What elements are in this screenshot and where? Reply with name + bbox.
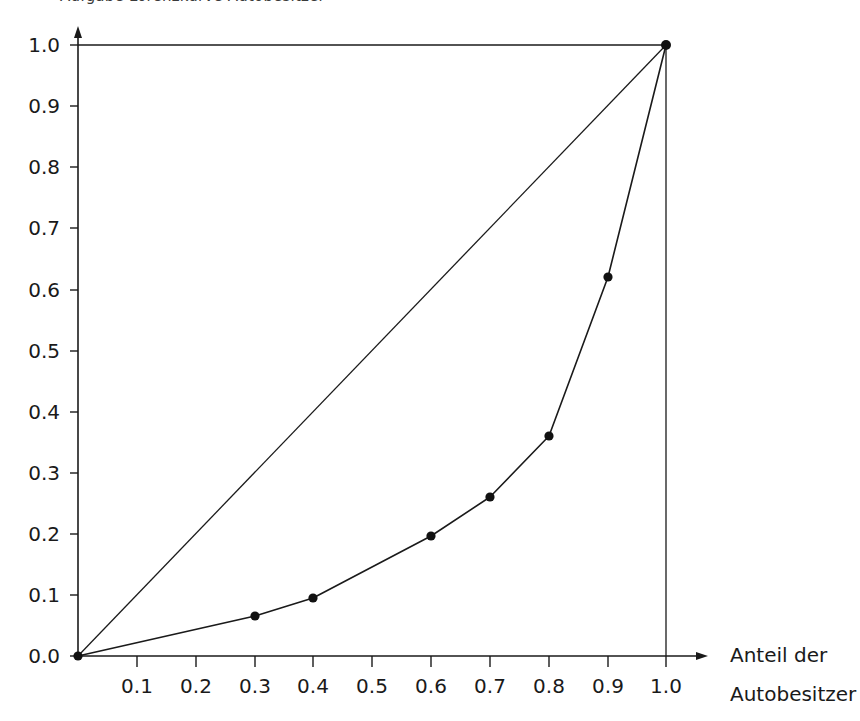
x-axis-title-line1: Anteil der [730,643,828,667]
x-tick-label-0.3: 0.3 [239,674,271,698]
equality-line [78,45,666,656]
x-tick-label-0.9: 0.9 [592,674,624,698]
x-tick-label-0.8: 0.8 [533,674,565,698]
y-tick-label-0.3: 0.3 [28,461,60,485]
lorenz-curve-chart: 1.0 0.9 0.8 0.7 0.6 0.5 0.4 0.3 0.2 0.1 … [0,0,860,721]
x-axis-tick-labels: 0.1 0.2 0.3 0.4 0.5 0.6 0.7 0.8 0.9 1.0 [121,674,682,698]
axes-group [74,26,708,660]
y-axis-ticks [70,45,78,656]
x-tick-label-0.4: 0.4 [297,674,329,698]
data-point-7 [661,40,671,50]
x-axis-title-line2: Autobesitzer [730,682,857,706]
data-point-3 [426,531,435,540]
data-point-2 [308,593,317,602]
y-tick-label-1.0: 1.0 [28,33,60,57]
data-point-4 [485,492,494,501]
x-tick-label-0.1: 0.1 [121,674,153,698]
data-point-0 [73,651,82,660]
x-axis-arrow-icon [696,652,708,660]
y-tick-label-0.6: 0.6 [28,278,60,302]
data-point-5 [544,431,553,440]
x-axis-ticks [137,656,666,667]
x-tick-label-0.7: 0.7 [474,674,506,698]
y-tick-label-0.2: 0.2 [28,522,60,546]
y-tick-label-0.8: 0.8 [28,155,60,179]
x-tick-label-0.6: 0.6 [415,674,447,698]
chart-svg: 1.0 0.9 0.8 0.7 0.6 0.5 0.4 0.3 0.2 0.1 … [0,0,860,721]
x-tick-label-1.0: 1.0 [650,674,682,698]
y-tick-label-0.4: 0.4 [28,400,60,424]
y-tick-label-0.0: 0.0 [28,644,60,668]
y-tick-label-0.1: 0.1 [28,583,60,607]
x-axis-title: Anteil der Autobesitzer [730,643,857,706]
y-tick-label-0.7: 0.7 [28,216,60,240]
y-axis-tick-labels: 1.0 0.9 0.8 0.7 0.6 0.5 0.4 0.3 0.2 0.1 … [28,33,60,668]
x-tick-label-0.2: 0.2 [180,674,212,698]
y-tick-label-0.5: 0.5 [28,339,60,363]
y-tick-label-0.9: 0.9 [28,94,60,118]
data-point-6 [603,272,612,281]
x-tick-label-0.5: 0.5 [356,674,388,698]
y-axis-arrow-icon [74,26,82,38]
data-point-1 [250,611,259,620]
